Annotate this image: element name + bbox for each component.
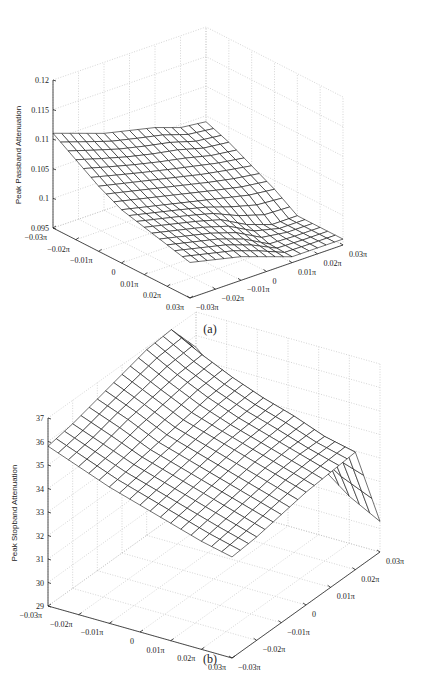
z-tick-label: 0.105 bbox=[31, 165, 49, 174]
x-tick-label: −0.03π bbox=[24, 233, 47, 242]
y-tick-label: 0.01π bbox=[337, 592, 355, 601]
grid-lines bbox=[48, 312, 380, 658]
x-tick-label: 0.02π bbox=[177, 654, 195, 663]
z-axis-label: Peak Stopband Attenuation bbox=[10, 465, 19, 562]
z-axis-label: Peak Passband Attenuation bbox=[14, 106, 23, 204]
x-tick-label: −0.01π bbox=[70, 256, 93, 265]
x-tick-label: 0.03π bbox=[208, 663, 226, 672]
z-tick-label: 37 bbox=[36, 414, 44, 423]
x-tick-label: −0.02π bbox=[50, 620, 73, 629]
x-tick-label: 0 bbox=[112, 268, 116, 277]
surface-mesh bbox=[53, 122, 343, 263]
y-tick-label: −0.03π bbox=[238, 663, 261, 672]
y-tick-label: 0.01π bbox=[298, 268, 316, 277]
y-tick-label: 0 bbox=[312, 610, 316, 619]
z-tick-label: 35 bbox=[36, 461, 44, 470]
z-tick-label: 33 bbox=[36, 508, 44, 517]
y-tick-label: 0.03π bbox=[386, 557, 404, 566]
y-tick-label: −0.01π bbox=[287, 628, 310, 637]
y-tick-label: −0.02π bbox=[263, 645, 286, 654]
x-tick-label: 0.01π bbox=[120, 280, 138, 289]
z-tick-label: 0.12 bbox=[35, 76, 49, 85]
y-tick-label: 0.03π bbox=[349, 250, 367, 259]
x-tick-label: 0.02π bbox=[143, 291, 161, 300]
y-tick-label: 0.02π bbox=[361, 575, 379, 584]
z-tick-label: 30 bbox=[36, 579, 44, 588]
surface-mesh bbox=[48, 330, 380, 557]
z-tick-label: 0.095 bbox=[31, 224, 49, 233]
z-tick-label: 0.1 bbox=[39, 194, 49, 203]
panel-caption-b: (b) bbox=[203, 652, 217, 666]
y-tick-label: 0.02π bbox=[324, 259, 342, 268]
x-tick-label: 0.01π bbox=[147, 646, 165, 655]
surface-chart-a: 0.0950.10.1050.110.1150.12−0.03π−0.02π−0… bbox=[0, 0, 430, 340]
z-tick-label: 32 bbox=[36, 532, 44, 541]
z-tick-label: 31 bbox=[36, 555, 44, 564]
axes bbox=[48, 418, 380, 658]
y-tick-label: −0.02π bbox=[222, 294, 245, 303]
panel-caption-a: (a) bbox=[203, 322, 216, 336]
x-tick-label: 0.03π bbox=[166, 303, 184, 312]
x-tick-label: −0.02π bbox=[47, 245, 70, 254]
z-tick-label: 36 bbox=[36, 438, 44, 447]
x-tick-label: −0.01π bbox=[81, 628, 104, 637]
tick-labels: 293031323334353637−0.03π−0.02π−0.01π00.0… bbox=[19, 414, 404, 672]
z-tick-label: 0.115 bbox=[31, 106, 49, 115]
y-tick-label: 0 bbox=[273, 277, 277, 286]
y-tick-label: −0.01π bbox=[247, 285, 270, 294]
z-tick-label: 29 bbox=[36, 602, 44, 611]
x-tick-label: −0.03π bbox=[19, 611, 42, 620]
z-tick-label: 0.11 bbox=[35, 135, 49, 144]
z-tick-label: 34 bbox=[36, 485, 44, 494]
x-tick-label: 0 bbox=[130, 637, 134, 646]
y-tick-label: −0.03π bbox=[196, 303, 219, 312]
